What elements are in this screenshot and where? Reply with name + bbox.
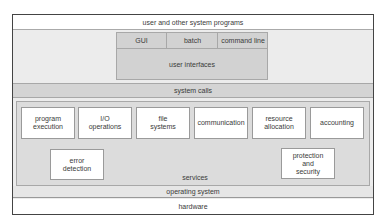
system-calls-label: system calls bbox=[13, 83, 373, 98]
ui-batch-label: batch bbox=[167, 32, 218, 49]
service-resource-allocation-label: resource allocation bbox=[252, 107, 306, 139]
service-io-operations-label: I/O operations bbox=[78, 107, 132, 139]
hardware-label: hardware bbox=[13, 199, 373, 214]
service-communication-label: communication bbox=[194, 107, 248, 139]
ui-cmdline-label: command line bbox=[218, 32, 268, 49]
service-program-execution-label: program execution bbox=[21, 107, 75, 139]
user-interfaces-label: user interfaces bbox=[116, 50, 268, 80]
operating-system-label: operating system bbox=[13, 186, 373, 198]
service-protection-security-label: protection and security bbox=[281, 148, 335, 179]
user-programs-label: user and other system programs bbox=[13, 15, 373, 30]
services-label: services bbox=[160, 172, 230, 183]
ui-gui-label: GUI bbox=[116, 32, 167, 49]
service-accounting-label: accounting bbox=[310, 107, 364, 139]
service-file-systems-label: file systems bbox=[136, 107, 190, 139]
service-error-detection-label: error detection bbox=[50, 149, 104, 180]
